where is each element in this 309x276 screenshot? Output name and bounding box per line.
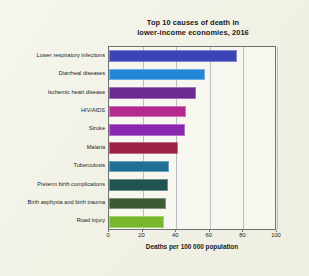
y-axis-label: Lower respiratory infections (7, 52, 105, 59)
y-axis-label: Ischemic heart disease (7, 89, 105, 96)
bar-row (109, 213, 164, 231)
bar-row (109, 121, 185, 139)
chart-title: Top 10 causes of death in lower-income e… (108, 18, 278, 37)
x-axis-label: Deaths per 100 000 population (108, 243, 276, 250)
y-axis-label: Diarrheal diseases (7, 70, 105, 77)
bar (109, 50, 237, 62)
bar (109, 198, 166, 210)
bar-row (109, 194, 166, 212)
plot-area (108, 46, 276, 230)
x-tick-label: 0 (106, 232, 109, 238)
bar-row (109, 65, 205, 83)
y-axis-label: Birth asphyxia and birth trauma (7, 199, 105, 206)
gridline (243, 47, 244, 229)
bar-row (109, 176, 168, 194)
y-axis-label: Tuberculosis (7, 162, 105, 169)
bar-row (109, 157, 169, 175)
bar (109, 216, 164, 228)
y-axis-label: HIV/AIDS (7, 107, 105, 114)
bar (109, 87, 196, 99)
chart-title-line-1: Top 10 causes of death in (147, 18, 239, 27)
gridline (210, 47, 211, 229)
gridline (277, 47, 278, 229)
chart-figure: Top 10 causes of death in lower-income e… (0, 0, 309, 276)
x-tick-label: 60 (206, 232, 212, 238)
bar (109, 69, 205, 81)
chart-title-line-2: lower-income economies, 2016 (108, 28, 278, 38)
x-tick-label: 100 (271, 232, 281, 238)
bar-row (109, 47, 237, 65)
y-axis-label: Stroke (7, 125, 105, 132)
x-tick-label: 20 (138, 232, 144, 238)
bar (109, 179, 168, 191)
y-axis-label: Malaria (7, 144, 105, 151)
bar-row (109, 139, 178, 157)
bar-row (109, 84, 196, 102)
x-tick-label: 40 (172, 232, 178, 238)
bar (109, 142, 178, 154)
x-tick-label: 80 (239, 232, 245, 238)
y-axis-label: Road injury (7, 217, 105, 224)
bar (109, 161, 169, 173)
y-axis-label: Preterm birth complications (7, 181, 105, 188)
bar-row (109, 102, 186, 120)
bar (109, 124, 185, 136)
bar (109, 106, 186, 118)
